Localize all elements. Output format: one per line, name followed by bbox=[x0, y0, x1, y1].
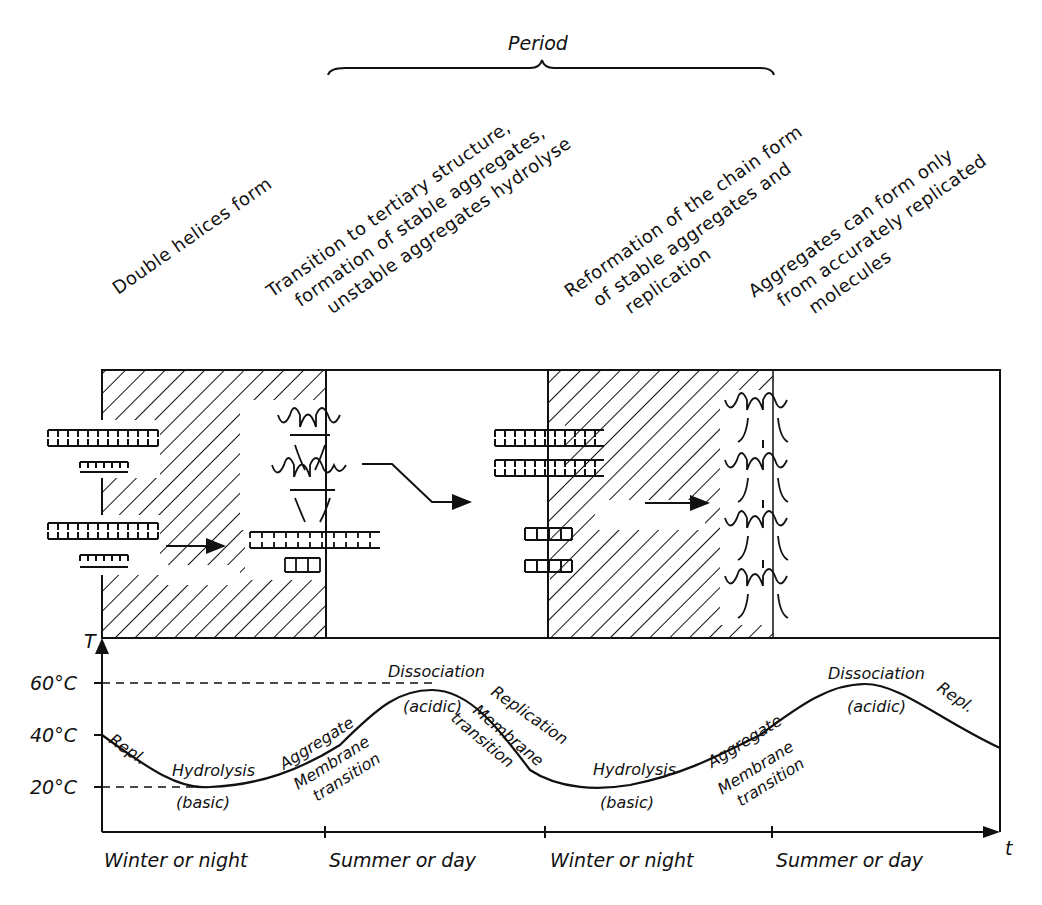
curve-label-basic-2: (basic) bbox=[600, 793, 654, 812]
curve-label-basic-1: (basic) bbox=[176, 793, 230, 812]
y-axis-label: T bbox=[84, 630, 97, 652]
curve-label-dissociation-1: Dissociation bbox=[388, 662, 485, 681]
annotation-double-helices: Double helices form bbox=[108, 172, 275, 298]
curve-label-acidic-2: (acidic) bbox=[847, 697, 906, 716]
y-axis-arrow-icon bbox=[95, 638, 109, 654]
x-phase-summer-2: Summer or day bbox=[776, 849, 924, 871]
svg-text:from accurately replicated: from accurately replicated bbox=[773, 150, 990, 311]
period-brace bbox=[328, 60, 774, 75]
period-label: Period bbox=[508, 32, 569, 54]
curve-label-repl-2: Repl. bbox=[934, 678, 978, 717]
x-phase-winter-1: Winter or night bbox=[104, 849, 249, 871]
curve-label-hydrolysis-1: Hydrolysis bbox=[172, 761, 255, 780]
x-axis-arrow-icon bbox=[983, 826, 1000, 838]
arrow-icon bbox=[362, 464, 470, 502]
annotation-tertiary-structure: Transition to tertiary structure, format… bbox=[261, 93, 574, 341]
temperature-chart: T t 60°C 40°C 20°C Repl. Hydrolysis (bas… bbox=[30, 630, 1014, 871]
x-phase-winter-2: Winter or night bbox=[550, 849, 695, 871]
x-axis-label: t bbox=[1005, 837, 1014, 859]
y-tick-20: 20°C bbox=[30, 776, 78, 798]
curve-label-dissociation-2: Dissociation bbox=[828, 664, 925, 683]
y-tick-40: 40°C bbox=[30, 724, 78, 746]
annotation-reformation: Reformation of the chain form of stable … bbox=[560, 120, 833, 340]
structure-panel bbox=[40, 370, 1000, 638]
x-phase-summer-1: Summer or day bbox=[329, 849, 477, 871]
svg-text:formation of stable aggregates: formation of stable aggregates, bbox=[291, 121, 549, 310]
curve-label-hydrolysis-2: Hydrolysis bbox=[593, 760, 676, 779]
diagram-canvas: Period Double helices form Transition to… bbox=[0, 0, 1042, 905]
svg-text:Double helices form: Double helices form bbox=[108, 172, 275, 298]
curve-label-acidic-1: (acidic) bbox=[403, 697, 462, 716]
y-tick-60: 60°C bbox=[30, 672, 78, 694]
